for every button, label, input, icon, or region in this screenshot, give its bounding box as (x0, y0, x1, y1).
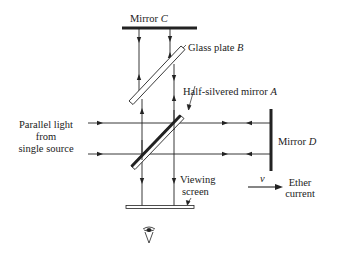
viewing-screen-label-line1: Viewing (180, 174, 216, 185)
half-silvered-mirror-label: Half-silvered mirror A (183, 86, 277, 97)
ether-current-label-line2: current (285, 188, 315, 199)
ether-current-label-line1: Ether (289, 177, 312, 188)
glass-plate-b-label: Glass plate B (188, 42, 244, 53)
velocity-label: v (260, 173, 265, 184)
source-label-line2: from (36, 131, 56, 142)
mirror-c-label: Mirror C (130, 13, 169, 24)
mirror-c (122, 27, 197, 30)
viewing-screen (126, 206, 194, 209)
interferometer-diagram: Mirror C Glass plate B Half-silvered mir… (0, 0, 343, 257)
viewing-screen-label-line2: screen (182, 186, 210, 197)
eye-icon (143, 227, 155, 243)
mirror-d (270, 109, 273, 171)
mirror-d-label: Mirror D (278, 136, 317, 147)
ether-current-arrow (248, 184, 283, 190)
source-label-line3: single source (18, 143, 73, 154)
glass-plate-b (129, 46, 185, 105)
source-label-line1: Parallel light (19, 119, 73, 130)
